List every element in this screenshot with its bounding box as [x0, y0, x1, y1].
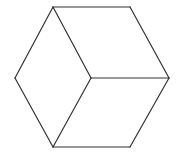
cube-edges	[15, 7, 169, 147]
edge-top_left-center	[53, 7, 91, 78]
edge-top_right-right	[130, 7, 169, 78]
edge-right-bottom_right	[130, 78, 169, 147]
edge-left-top_left	[15, 7, 53, 78]
cube-diagram	[0, 0, 178, 161]
edge-center-bottom_left	[53, 78, 91, 147]
edge-bottom_left-left	[15, 78, 53, 147]
